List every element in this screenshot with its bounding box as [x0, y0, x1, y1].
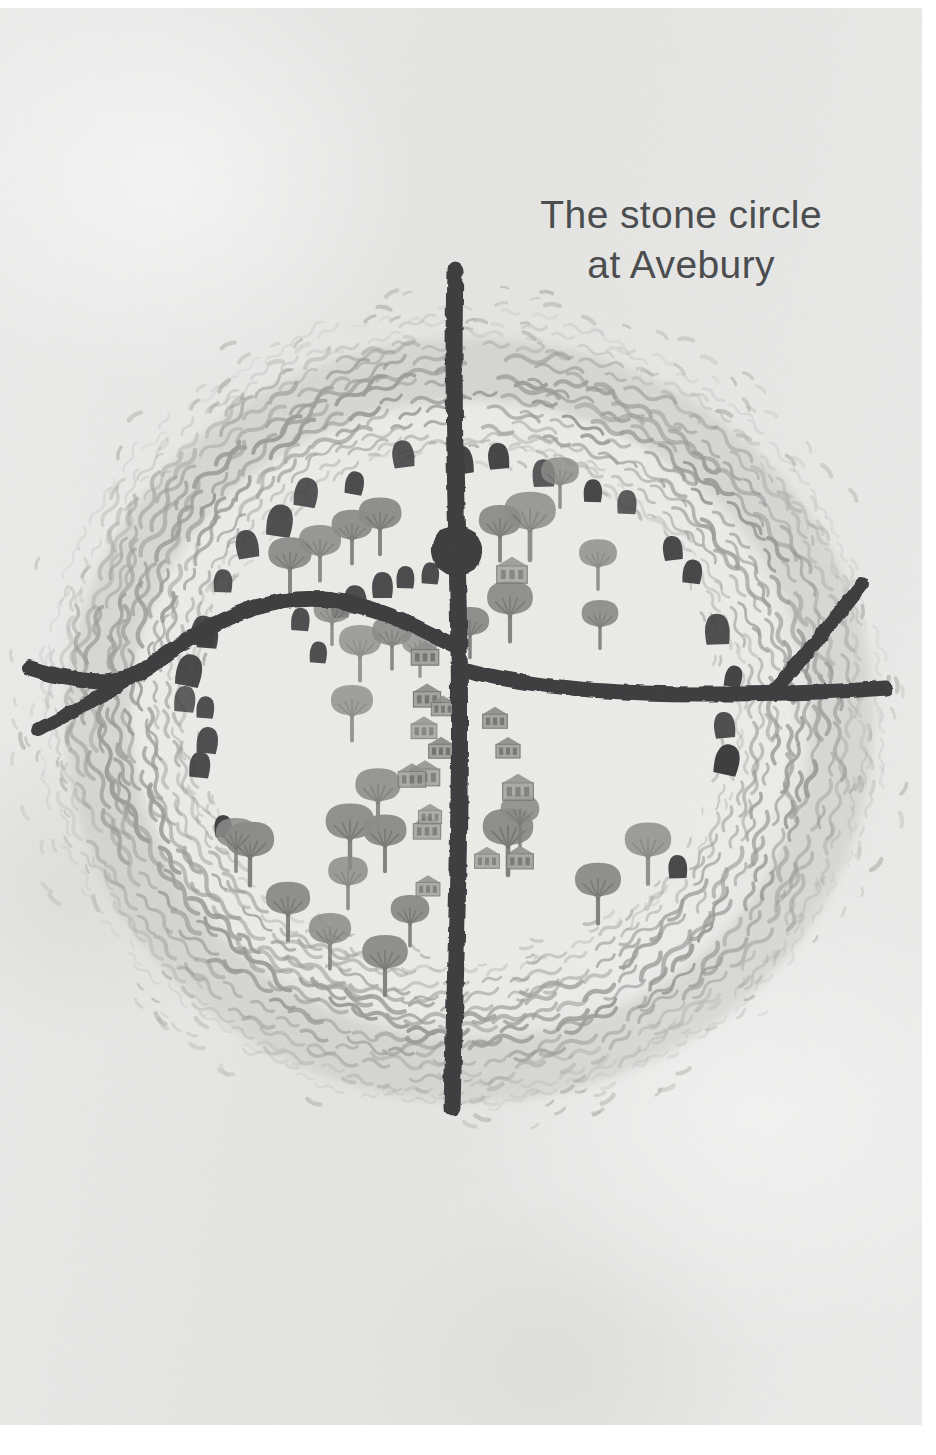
title-line-1: The stone circle — [540, 190, 822, 240]
title-line-2: at Avebury — [540, 240, 822, 290]
illustration-page: The stone circle at Avebury — [0, 0, 936, 1455]
paper-sheet: The stone circle at Avebury — [0, 8, 922, 1425]
page-title: The stone circle at Avebury — [540, 190, 822, 290]
